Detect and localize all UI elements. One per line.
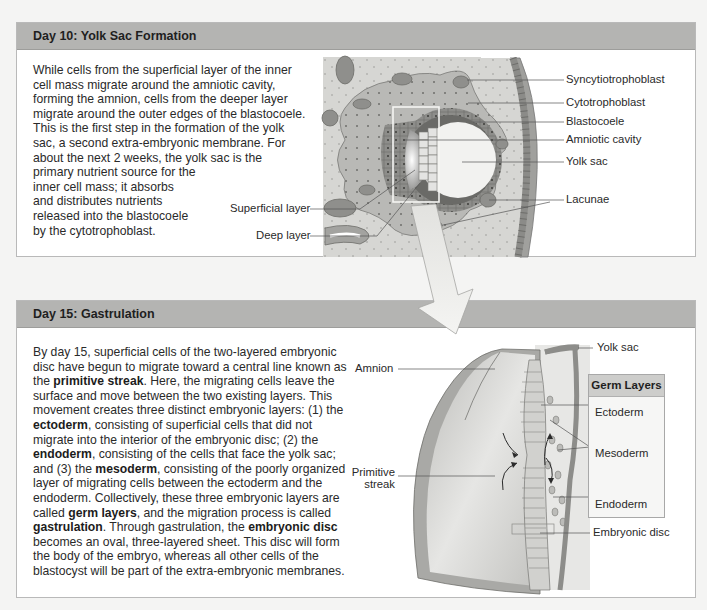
label-superficial-layer: Superficial layer bbox=[230, 202, 310, 214]
label-primitive-streak: Primitive streak bbox=[351, 466, 395, 490]
embryo-illustrations bbox=[0, 0, 707, 610]
label-lacunae: Lacunae bbox=[566, 193, 609, 205]
label-amniotic-cavity: Amniotic cavity bbox=[566, 133, 641, 145]
label-deep-layer: Deep layer bbox=[256, 229, 311, 241]
label-amnion: Amnion bbox=[355, 362, 393, 374]
label-ectoderm: Ectoderm bbox=[595, 406, 643, 418]
label-yolk-sac-day15: Yolk sac bbox=[597, 341, 639, 353]
label-syncytiotrophoblast: Syncytiotrophoblast bbox=[566, 73, 665, 85]
germ-layers-title: Germ Layers bbox=[589, 375, 664, 397]
label-yolk-sac: Yolk sac bbox=[566, 155, 608, 167]
germ-layers-legend: Germ Layers Ectoderm Mesoderm Endoderm bbox=[588, 374, 665, 518]
label-mesoderm: Mesoderm bbox=[595, 447, 648, 459]
label-embryonic-disc: Embryonic disc bbox=[593, 526, 670, 538]
label-blastocoele: Blastocoele bbox=[566, 115, 624, 127]
label-cytotrophoblast: Cytotrophoblast bbox=[566, 96, 645, 108]
label-endoderm: Endoderm bbox=[595, 498, 647, 510]
gastrulation-diagram bbox=[414, 345, 590, 594]
